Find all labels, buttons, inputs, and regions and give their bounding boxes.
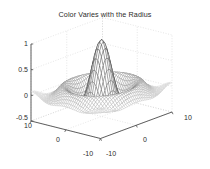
left-axis-tick-0: 0 bbox=[56, 136, 60, 143]
surface-plot-canvas bbox=[0, 0, 210, 169]
matlab-figure-window: Color Varies with the Radius 1 0.5 0 -0.… bbox=[0, 0, 210, 169]
z-tick-label-1: 1 bbox=[8, 40, 28, 47]
z-tick-label-0: 0 bbox=[8, 92, 28, 99]
right-axis-tick-neg10: -10 bbox=[106, 150, 116, 157]
right-axis-tick-0: 0 bbox=[143, 136, 147, 143]
z-tick-label-neg0.5: -0.5 bbox=[1, 114, 28, 121]
left-axis-tick-10: 10 bbox=[24, 122, 32, 129]
right-axis-tick-10: 10 bbox=[184, 114, 192, 121]
left-axis-tick-neg10: -10 bbox=[83, 150, 93, 157]
z-tick-label-0.5: 0.5 bbox=[4, 66, 28, 73]
